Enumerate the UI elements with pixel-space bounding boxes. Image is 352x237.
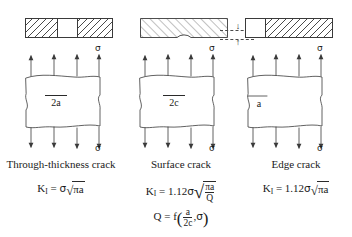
formula-radical: √πa: [66, 181, 85, 198]
crack-length-label: 2a: [45, 95, 67, 108]
formula-radicand: πa: [72, 181, 84, 196]
bottom-stress-label: σ: [95, 144, 101, 153]
formula-radicand: πa: [317, 181, 329, 196]
formula-sigma: σ: [187, 185, 194, 197]
formula-surface-shape-factor: Q = f(a2c,σ): [122, 207, 240, 228]
bottom-load-arrows: [251, 127, 324, 149]
column-through-thickness-crack: σ σ 2a Through-thickness crack KI = σ√πa: [0, 0, 122, 237]
section-bar: [245, 18, 333, 38]
formula-sub-fraction: a2c: [182, 207, 193, 228]
column-edge-crack: σ σ a Edge crack KI = 1.12σ√πa: [240, 0, 352, 237]
top-load-arrows: [143, 54, 216, 76]
bottom-load-arrows: [143, 127, 216, 149]
caption-surface-crack: Surface crack: [122, 158, 240, 171]
plate-through-thickness: σ σ 2a: [0, 52, 122, 152]
formula-through-thickness: KI = σ√πa: [0, 181, 122, 199]
paren-close: ): [203, 209, 209, 228]
formula-surface: KI = 1.12σ√πaQ: [122, 181, 240, 203]
formula-lhs-subscript: I: [271, 187, 274, 196]
formula-sub-sigma: σ: [196, 210, 203, 222]
fraction-numerator: πa: [205, 182, 214, 192]
bottom-stress-label: σ: [317, 144, 323, 153]
formula-sigma: σ: [304, 182, 311, 194]
bottom-load-arrows: [29, 127, 102, 149]
hatched-segment: [266, 19, 332, 37]
fracture-mechanics-figure: σ σ 2a Through-thickness crack KI = σ√πa: [0, 0, 352, 237]
cross-section-edge: [240, 14, 352, 50]
formula-equals: =: [51, 182, 57, 194]
crack-gap-segment: [246, 19, 265, 37]
section-bar: [25, 18, 113, 38]
crack-gap-segment: [58, 19, 77, 37]
fraction-denominator: Q: [205, 192, 214, 203]
hatched-body-with-notch: [141, 19, 228, 38]
formula-radical: √πa: [311, 181, 330, 198]
bottom-stress-label: σ: [209, 144, 215, 153]
plate-edge: σ σ a: [240, 52, 352, 152]
cross-section-through-thickness: [0, 14, 122, 50]
crack-length-label: a: [252, 97, 266, 109]
top-stress-label: σ: [209, 44, 215, 53]
hatched-segment-left: [26, 19, 57, 37]
formula-fraction: πaQ: [204, 182, 215, 203]
hatched-segment-right: [78, 19, 112, 37]
top-stress-label: σ: [317, 44, 323, 53]
fraction-numerator: a: [183, 207, 192, 217]
crack-length-label: 2c: [163, 95, 185, 108]
formula-equals: =: [159, 185, 165, 197]
caption-edge-crack: Edge crack: [240, 158, 352, 171]
plate-surface: σ σ 2c: [122, 52, 240, 152]
cross-section-surface: ↓ ↑ a: [122, 14, 240, 50]
top-load-arrows: [29, 54, 102, 76]
formula-sub-equals: =: [164, 210, 170, 222]
formula-radical: √πaQ: [194, 181, 216, 203]
formula-lhs: K: [146, 185, 154, 197]
formula-coefficient: 1.12: [285, 182, 304, 194]
formula-equals: =: [276, 182, 282, 194]
top-stress-label: σ: [95, 44, 101, 53]
formula-sigma: σ: [59, 182, 66, 194]
formula-radical-body: πaQ: [203, 181, 216, 203]
formula-lhs-subscript: I: [154, 189, 157, 198]
fraction-denominator: 2c: [183, 217, 192, 228]
formula-edge: KI = 1.12σ√πa: [240, 181, 352, 199]
formula-lhs: K: [263, 182, 271, 194]
surface-section-svg: [140, 18, 228, 38]
formula-lhs-subscript: I: [45, 187, 48, 196]
formula-coefficient: 1.12: [168, 185, 187, 197]
column-surface-crack: ↓ ↑ a: [122, 0, 240, 237]
top-load-arrows: [251, 54, 324, 76]
caption-through-thickness-crack: Through-thickness crack: [0, 158, 122, 171]
formula-sub-lhs: Q: [153, 210, 161, 222]
